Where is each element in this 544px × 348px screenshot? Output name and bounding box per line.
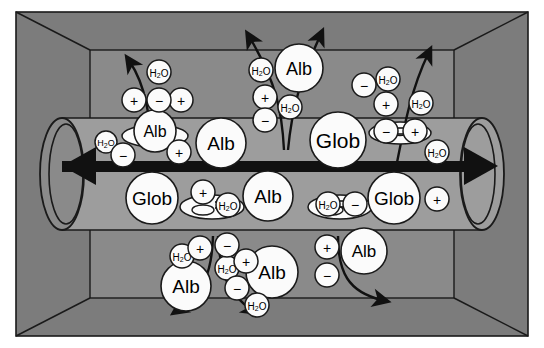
anion-particle-an-bottom-b: − [225,276,249,300]
cation-particle-cat-bottom-a: + [188,236,212,260]
cation-particle-label: + [323,240,331,256]
albumin-particle-label: Alb [352,242,377,261]
anion-particle-an-bottom-c: − [315,263,339,287]
globulin-particle-glob-tube-left: Glob [126,172,178,224]
cation-particle-cat-tube-left: + [167,140,191,164]
cation-particle-cat-top-left-b: + [169,88,193,112]
water-particle-h2o-top-left: H2O [147,60,171,84]
albumin-particle-label: Alb [172,276,199,297]
globulin-particle-glob-tube-center: Glob [310,112,366,168]
albumin-particle-alb-tube-midleft: Alb [196,118,246,168]
anion-particle-label: − [119,148,127,164]
water-particle-h2o-top-center: H2O [249,58,273,82]
water-particle-h2o-tube-right: H2O [425,140,449,164]
albumin-particle-label: Alb [254,186,281,207]
albumin-particle-alb-bottom-right: Alb [341,228,387,274]
anion-particle-label: − [233,281,241,297]
cation-particle-cat-bottom-b: + [234,249,258,273]
anion-particle-label: − [382,124,390,140]
water-particle-h2o-rbc-right: H2O [316,192,340,216]
cation-particle-label: + [433,192,441,208]
albumin-particle-label: Alb [286,59,312,79]
cation-particle-label: + [261,90,269,106]
cation-particle-cat-bottom-c: + [315,235,339,259]
anion-particle-label: − [360,78,368,94]
anion-particle-an-tube-left: − [111,143,135,167]
anion-particle-an-bottom-a: − [215,233,239,257]
anion-particle-an-top-right: − [352,73,376,97]
water-particle-h2o-top-right-b: H2O [409,91,433,115]
anion-particle-label: − [223,238,231,254]
cation-particle-label: + [382,97,390,113]
albumin-particle-alb-tube-midright: Alb [243,171,293,221]
water-particle-h2o-rbc-left: H2O [216,193,240,217]
cation-particle-label: + [130,93,138,109]
globulin-particle-label: Glob [132,188,172,209]
cation-particle-cat-rbc-left: + [191,180,215,204]
water-particle-h2o-top-right-a: H2O [376,67,400,91]
anion-particle-an-top-left: − [147,88,171,112]
albumin-particle-label: Alb [143,123,166,140]
cation-particle-cat-top-left-a: + [122,88,146,112]
cation-particle-label: + [196,241,204,257]
anion-particle-label: − [323,268,331,284]
cation-particle-cat-rbc-tright: + [403,119,427,143]
figure-canvas: AlbAlbAlbAlbAlbAlbAlbGlobGlobGlobH2OH2OH… [0,0,544,348]
globulin-particle-glob-tube-right: Glob [368,172,420,224]
anion-particle-an-rbc-right: − [343,192,367,216]
cation-particle-cat-top-right: + [374,92,398,116]
globulin-particle-label: Glob [374,188,414,209]
cation-particle-cat-top-center: + [253,85,277,109]
cation-particle-label: + [242,254,250,270]
anion-particle-label: − [261,113,269,129]
cation-particle-label: + [175,145,183,161]
anion-particle-an-rbc-tright: − [374,119,398,143]
water-particle-h2o-bottom-c: H2O [245,293,269,317]
anion-particle-label: − [351,197,359,213]
albumin-particle-alb-bottom-left: Alb [161,261,211,311]
anion-particle-an-top-center: − [253,108,277,132]
cation-particle-label: + [411,124,419,140]
cation-particle-cat-tube-right: + [425,187,449,211]
water-particle-h2o-top-center-low: H2O [278,95,302,119]
albumin-particle-label: Alb [258,262,285,283]
albumin-particle-label: Alb [207,133,234,154]
cation-particle-label: + [199,185,207,201]
cation-particle-label: + [177,93,185,109]
anion-particle-label: − [155,93,163,109]
globulin-particle-label: Glob [316,129,360,152]
albumin-particle-alb-top-center: Alb [275,44,323,92]
